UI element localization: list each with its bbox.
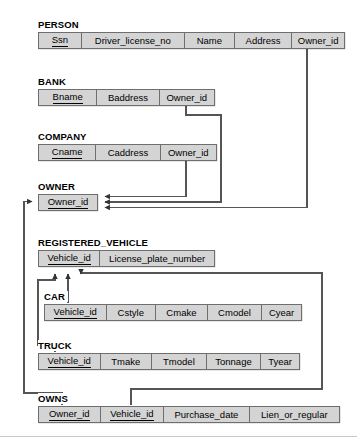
column-truck-vehicle-id[interactable]: Vehicle_id: [39, 354, 101, 369]
relation-name-owns: OWNS: [38, 393, 71, 404]
column-company-cname[interactable]: Cname: [39, 145, 96, 160]
fk-company-owner: [105, 160, 186, 197]
column-bank-owner-id[interactable]: Owner_id: [160, 90, 214, 105]
relation-name-car: CAR: [44, 291, 68, 302]
relation-truck[interactable]: TRUCK Vehicle_id Tmake Tmodel Tonnage Ty…: [38, 335, 300, 370]
column-car-cmodel[interactable]: Cmodel: [208, 305, 263, 320]
relation-columns-person: Ssn Driver_license_no Name Address Owner…: [38, 32, 345, 49]
relation-name-bank: BANK: [38, 76, 69, 87]
relation-name-person: PERSON: [38, 19, 82, 30]
column-person-ssn[interactable]: Ssn: [39, 33, 82, 48]
relation-columns-company: Cname Caddress Owner_id: [38, 144, 217, 161]
column-owns-lien-or-regular[interactable]: Lien_or_regular: [250, 407, 339, 422]
column-owns-owner-id[interactable]: Owner_id: [39, 407, 101, 422]
column-owns-purchase-date[interactable]: Purchase_date: [164, 407, 249, 422]
column-car-vehicle-id[interactable]: Vehicle_id: [45, 305, 107, 320]
relation-name-owner: OWNER: [38, 181, 78, 192]
relation-car[interactable]: CAR Vehicle_id Cstyle Cmake Cmodel Cyear: [44, 286, 302, 321]
relation-company[interactable]: COMPANY Cname Caddress Owner_id: [38, 126, 217, 161]
column-bank-baddress[interactable]: Baddress: [97, 90, 159, 105]
relation-name-company: COMPANY: [38, 131, 90, 142]
column-person-driver-license-no[interactable]: Driver_license_no: [82, 33, 185, 48]
relation-columns-registered-vehicle: Vehicle_id License_plate_number: [38, 250, 215, 267]
figure-bottom-rule: [0, 436, 357, 437]
column-car-cstyle[interactable]: Cstyle: [107, 305, 157, 320]
relation-owns[interactable]: OWNS Owner_id Vehicle_id Purchase_date L…: [38, 388, 340, 423]
column-car-cyear[interactable]: Cyear: [262, 305, 301, 320]
relation-registered-vehicle[interactable]: REGISTERED_VEHICLE Vehicle_id License_pl…: [38, 232, 215, 267]
relation-columns-bank: Bname Baddress Owner_id: [38, 89, 215, 106]
column-company-caddress[interactable]: Caddress: [96, 145, 160, 160]
relation-columns-owns: Owner_id Vehicle_id Purchase_date Lien_o…: [38, 406, 340, 423]
column-person-owner-id[interactable]: Owner_id: [292, 33, 344, 48]
column-owner-owner-id[interactable]: Owner_id: [39, 195, 97, 210]
column-truck-tyear[interactable]: Tyear: [261, 354, 299, 369]
column-truck-tonnage[interactable]: Tonnage: [207, 354, 262, 369]
relation-columns-truck: Vehicle_id Tmake Tmodel Tonnage Tyear: [38, 353, 300, 370]
relation-owner[interactable]: OWNER Owner_id: [38, 176, 98, 211]
column-bank-bname[interactable]: Bname: [39, 90, 97, 105]
er-diagram-canvas: PERSON Ssn Driver_license_no Name Addres…: [0, 0, 357, 442]
relation-person[interactable]: PERSON Ssn Driver_license_no Name Addres…: [38, 14, 345, 49]
column-car-cmake[interactable]: Cmake: [156, 305, 208, 320]
relation-columns-car: Vehicle_id Cstyle Cmake Cmodel Cyear: [44, 304, 302, 321]
relation-bank[interactable]: BANK Bname Baddress Owner_id: [38, 71, 215, 106]
foreign-key-connectors: [0, 0, 357, 442]
column-truck-tmodel[interactable]: Tmodel: [152, 354, 207, 369]
relation-columns-owner: Owner_id: [38, 194, 98, 211]
column-truck-tmake[interactable]: Tmake: [101, 354, 153, 369]
column-registered-vehicle-vehicle-id[interactable]: Vehicle_id: [39, 251, 100, 266]
column-person-address[interactable]: Address: [235, 33, 293, 48]
column-person-name[interactable]: Name: [185, 33, 235, 48]
column-owns-vehicle-id[interactable]: Vehicle_id: [101, 407, 165, 422]
relation-name-truck: TRUCK: [38, 340, 75, 351]
column-company-owner-id[interactable]: Owner_id: [161, 145, 216, 160]
column-registered-vehicle-license-plate-number[interactable]: License_plate_number: [100, 251, 214, 266]
relation-name-registered-vehicle: REGISTERED_VEHICLE: [38, 237, 151, 248]
